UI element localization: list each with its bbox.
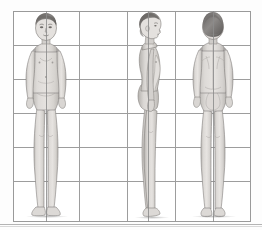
panel-anterior-view: Anterior view xyxy=(13,11,79,222)
panel-lateral-view: Lateral view xyxy=(127,11,175,222)
page-rule-secondary xyxy=(0,226,262,227)
plumb-line-lateral xyxy=(148,11,149,222)
figure-plate: Whole-body posture assessment — three st… xyxy=(0,0,262,230)
ground-shadow-posterior xyxy=(192,215,236,218)
grid-line-vertical xyxy=(79,12,80,221)
figure-lateral xyxy=(127,11,175,222)
ground-shadow-lateral xyxy=(135,216,169,219)
plumb-line-anterior xyxy=(46,11,47,222)
panel-posterior-view: Posterior view xyxy=(175,11,251,222)
page-rule xyxy=(0,224,262,225)
plumb-line-posterior xyxy=(213,11,214,222)
ground-shadow-anterior xyxy=(26,215,68,218)
